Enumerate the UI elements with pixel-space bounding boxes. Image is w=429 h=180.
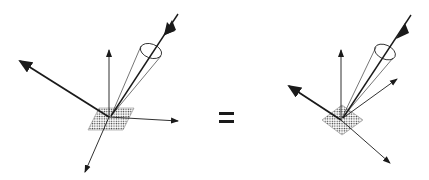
cone-top xyxy=(372,41,398,63)
cone-edge xyxy=(111,56,161,116)
surface-patch xyxy=(322,105,363,135)
equals-sign xyxy=(219,112,234,123)
diagram-canvas xyxy=(0,0,429,180)
incident-arrowhead xyxy=(396,23,409,39)
right-diagram xyxy=(289,15,411,163)
reflected-arrow xyxy=(20,61,109,117)
reflected-arrow xyxy=(289,86,341,120)
transmitted-arrow xyxy=(341,120,390,163)
incident-beam xyxy=(343,15,411,118)
left-diagram xyxy=(20,14,178,172)
cone-edge xyxy=(111,46,141,116)
surface-patch xyxy=(88,108,134,130)
cone-top xyxy=(138,41,163,62)
cone-edge xyxy=(342,47,376,118)
